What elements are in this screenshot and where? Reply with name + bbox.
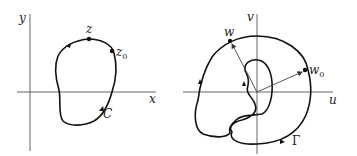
direction-arrow-icon — [280, 139, 285, 144]
v-axis-label: v — [247, 10, 254, 24]
point-w — [228, 39, 232, 43]
z-plane-panel: y x z z0 C — [17, 11, 156, 151]
y-axis-label: y — [18, 11, 26, 25]
point-z0-label: z0 — [115, 45, 127, 61]
point-w0 — [303, 68, 307, 72]
curve-gamma-label: Γ — [292, 134, 300, 148]
point-w0-label: w0 — [309, 63, 324, 79]
point-z — [87, 37, 91, 41]
curve-c-label: C — [103, 107, 112, 121]
x-axis-label: x — [149, 92, 156, 106]
point-z-label: z — [85, 22, 93, 36]
w-plane-panel: v u w w0 Γ — [183, 10, 337, 154]
vector-w0 — [257, 72, 302, 92]
point-z0 — [110, 49, 114, 53]
point-w-label: w — [224, 25, 235, 39]
direction-arrow-icon — [242, 81, 246, 86]
diagram-canvas: y x z z0 C v u w w0 Γ — [0, 0, 357, 156]
u-axis-label: u — [329, 93, 337, 107]
contour-gamma — [195, 36, 311, 144]
